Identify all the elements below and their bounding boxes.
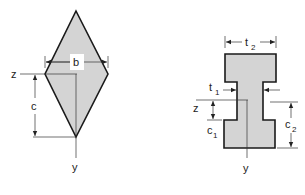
z-axis-label-right: z — [193, 102, 199, 114]
y-axis-label-right: y — [243, 162, 249, 174]
t2-label: t — [245, 36, 248, 48]
c2-subscript: 2 — [292, 125, 297, 134]
c2-label: c — [285, 118, 291, 130]
t1-label: t — [209, 81, 212, 93]
b-label: b — [73, 56, 79, 68]
c-label: c — [31, 100, 37, 112]
z-axis-label: z — [11, 68, 17, 80]
i-section: t 2 t 1 z y c 1 c 2 — [193, 36, 298, 174]
c1-subscript: 1 — [213, 131, 218, 140]
i-section-shape — [224, 54, 276, 148]
rhombus-section: b z y c — [11, 11, 108, 173]
t2-subscript: 2 — [251, 43, 256, 52]
y-axis-label: y — [72, 161, 78, 173]
cross-section-diagram: b z y c t 2 t 1 z y — [0, 0, 305, 195]
t1-subscript: 1 — [215, 88, 220, 97]
